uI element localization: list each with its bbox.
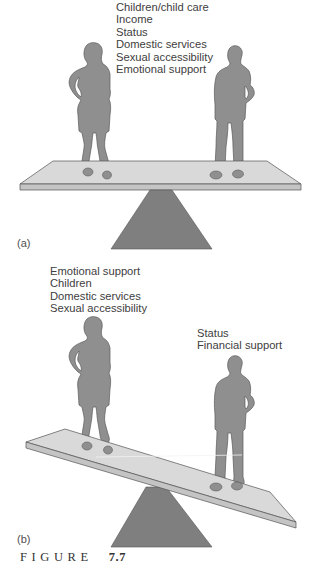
label-item: Domestic services xyxy=(116,38,213,50)
woman-figure-a xyxy=(69,43,111,177)
fulcrum-a xyxy=(111,190,212,249)
balance-diagram xyxy=(0,0,312,573)
panel-b-tag: (b) xyxy=(17,533,30,545)
label-item: Emotional support xyxy=(116,63,213,75)
panel-b-woman-labels: Emotional support Children Domestic serv… xyxy=(50,265,147,315)
label-item: Income xyxy=(116,13,213,25)
panel-b-man-labels: Status Financial support xyxy=(197,327,282,352)
panel-a-tag: (a) xyxy=(17,237,30,249)
label-item: Status xyxy=(197,327,282,339)
label-item: Sexual accessibility xyxy=(50,302,147,314)
label-item: Children xyxy=(50,277,147,289)
label-item: Emotional support xyxy=(50,265,147,277)
label-item: Sexual accessibility xyxy=(116,51,213,63)
panel-a-man-labels: Children/child care Income Status Domest… xyxy=(116,1,213,75)
man-figure-b xyxy=(212,356,255,488)
label-item: Status xyxy=(116,26,213,38)
label-item: Financial support xyxy=(197,339,282,351)
figure-number: 7.7 xyxy=(109,550,126,564)
label-item: Domestic services xyxy=(50,290,147,302)
figure-caption: FIGURE7.7 xyxy=(20,550,126,565)
man-figure-a xyxy=(212,46,255,178)
label-item: Children/child care xyxy=(116,1,213,13)
figure-word: FIGURE xyxy=(20,550,93,564)
balance-board-a xyxy=(20,161,301,184)
woman-figure-b xyxy=(69,317,111,451)
